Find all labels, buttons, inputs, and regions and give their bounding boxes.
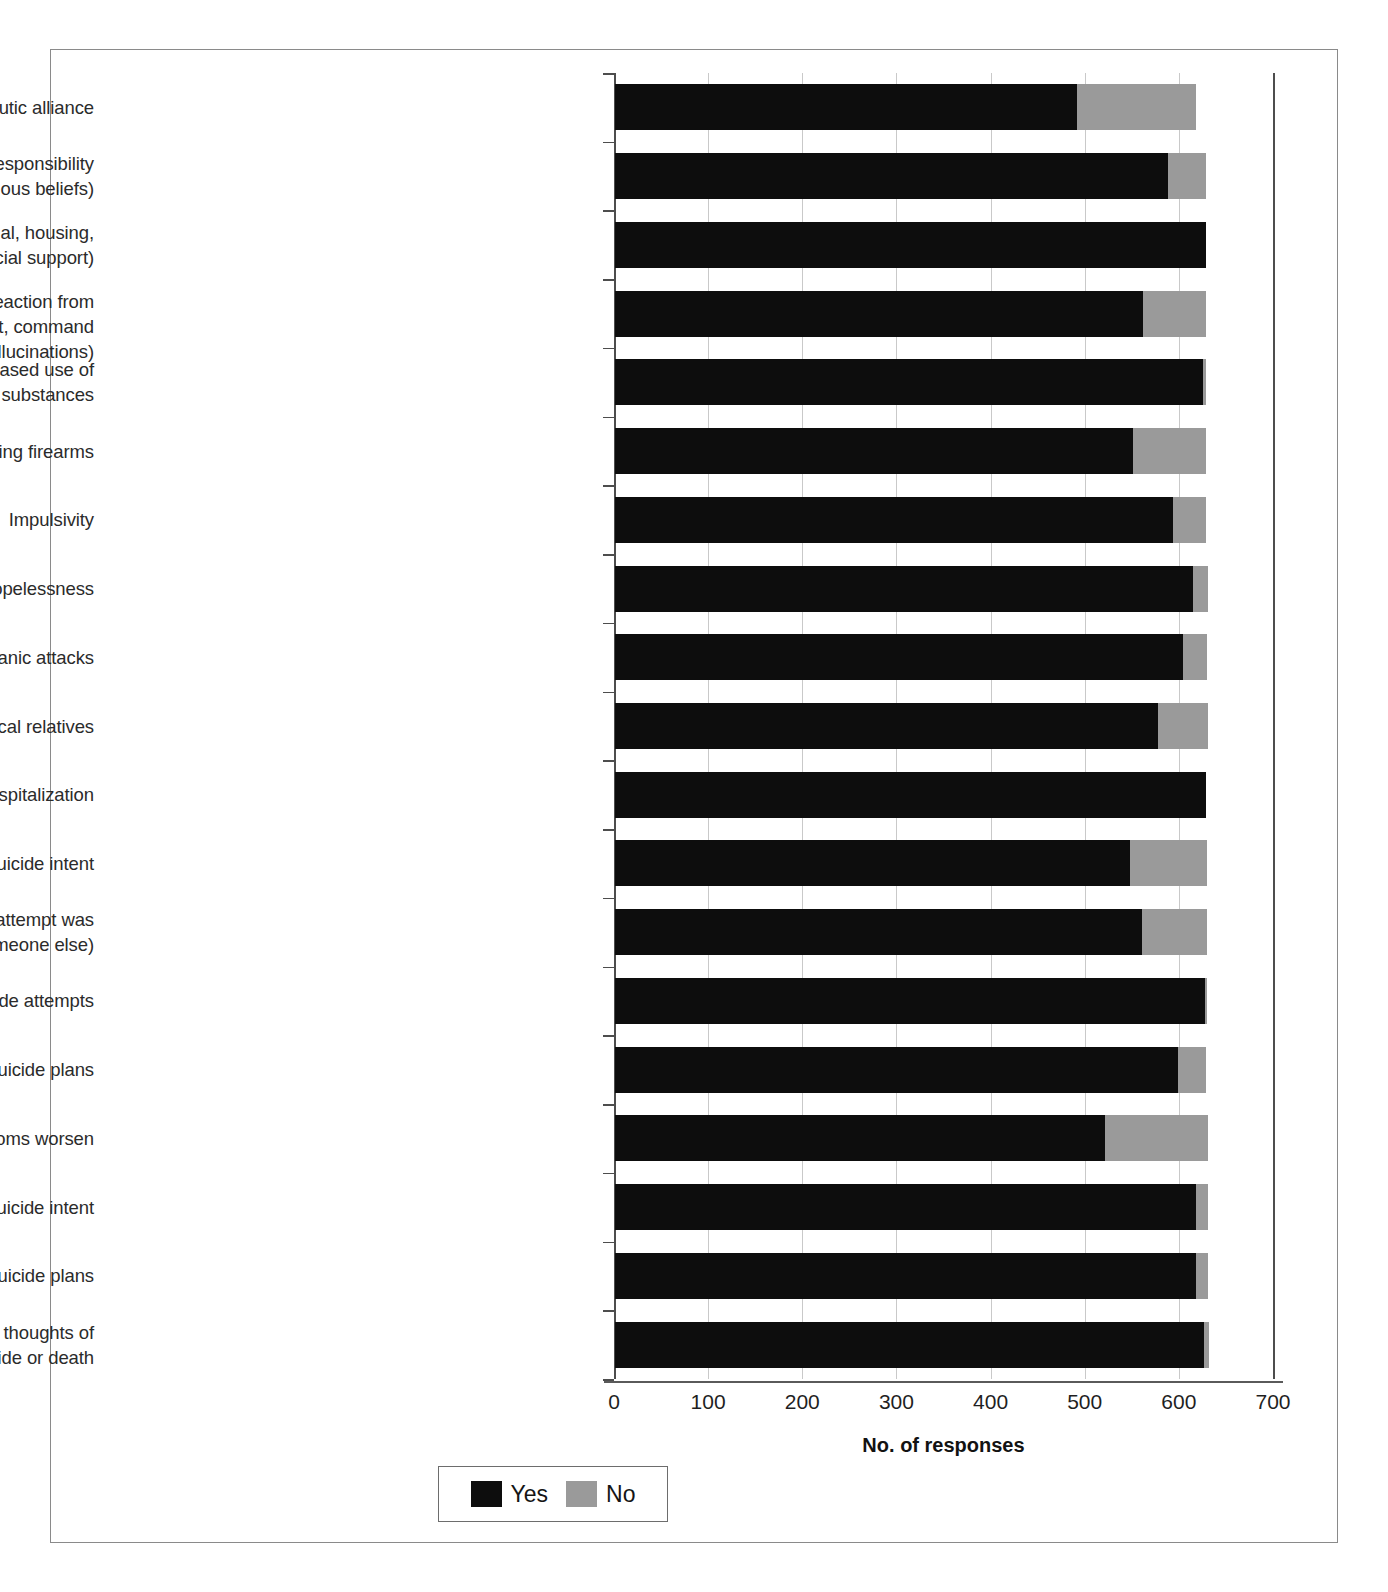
bar-segment-no [1203, 359, 1206, 405]
bar-segment-yes [615, 153, 1168, 199]
y-axis-tick [603, 348, 614, 350]
category-label-line: Prior suicide attempts [0, 988, 94, 1013]
y-axis-tick [603, 1173, 614, 1175]
category-label: Quality and strength of the therapeutic … [0, 95, 94, 120]
gridline-700 [1273, 73, 1275, 1379]
category-label-line: others, revenge, shame, humiliation, del… [0, 314, 94, 364]
category-label-line: Prior aborted or interrupted suicide att… [0, 907, 94, 932]
x-tick-label-300: 300 [856, 1390, 936, 1414]
x-tick-label-600: 600 [1139, 1390, 1219, 1414]
category-label-line: alcohol or other substances [0, 382, 94, 407]
legend-swatch-yes [471, 1481, 502, 1507]
bar-row [615, 703, 1208, 749]
bar-segment-no [1142, 909, 1207, 955]
x-tick-label-200: 200 [762, 1390, 842, 1414]
category-label: Prior suicide attempts [0, 988, 94, 1013]
bar-segment-yes [615, 222, 1206, 268]
category-label-line: Prior suicidal ideas or suicide plans [0, 1057, 94, 1082]
y-axis-tick [603, 1035, 614, 1037]
x-axis-title: No. of responses [614, 1434, 1273, 1457]
x-tick-label-500: 500 [1045, 1390, 1125, 1414]
bar-segment-no [1173, 497, 1206, 543]
bar-segment-yes [615, 772, 1206, 818]
y-axis-tick [603, 623, 614, 625]
y-axis-tick [603, 279, 614, 281]
bar-segment-no [1143, 291, 1206, 337]
x-tick-label-0: 0 [574, 1390, 654, 1414]
category-label-line: Hopelessness [0, 576, 94, 601]
category-label-line: to children or others, religious beliefs… [0, 176, 94, 201]
category-label: Accessibility of suicide methods, includ… [0, 439, 94, 464]
bar-segment-yes [615, 1115, 1105, 1161]
y-axis-tick [603, 485, 614, 487]
bar-row [615, 84, 1196, 130]
bar-row [615, 909, 1207, 955]
y-axis-tick [603, 1310, 614, 1312]
y-axis-tick [603, 692, 614, 694]
bar-row [615, 428, 1206, 474]
bar-segment-yes [615, 291, 1143, 337]
bar-row [615, 222, 1206, 268]
legend-label-yes: Yes [511, 1481, 549, 1508]
y-axis-tick [603, 1242, 614, 1244]
category-label-line: Impulsivity [0, 507, 94, 532]
x-tick-label-400: 400 [951, 1390, 1031, 1414]
category-label-line: Presence or absence of psychosocial stre… [0, 220, 94, 245]
bar-segment-no [1204, 1322, 1209, 1368]
bar-row [615, 1322, 1209, 1368]
legend-item-no: No [566, 1481, 635, 1508]
bar-segment-no [1193, 566, 1208, 612]
bar-row [615, 1184, 1208, 1230]
bar-segment-yes [615, 1184, 1196, 1230]
bar-segment-no [1105, 1115, 1209, 1161]
legend-swatch-no [566, 1481, 597, 1507]
bar-segment-yes [615, 1322, 1204, 1368]
y-axis-tick [603, 1104, 614, 1106]
category-label: Current or recent dependence, abuse, or … [0, 357, 94, 407]
y-axis-tick [603, 829, 614, 831]
category-label-line: Intended course of action if current sym… [0, 1126, 94, 1151]
category-label: Prior intentional self-injury without su… [0, 851, 94, 876]
bar-row [615, 291, 1206, 337]
category-label-line: stopped by the individual or by someone … [0, 932, 94, 957]
bar-segment-no [1196, 1253, 1208, 1299]
bar-segment-no [1130, 840, 1207, 886]
bar-segment-yes [615, 497, 1173, 543]
category-label-line: Current suicide plans [0, 1263, 94, 1288]
y-axis-tick [603, 554, 614, 556]
bar-segment-no [1178, 1047, 1206, 1093]
bar-segment-no [1133, 428, 1206, 474]
bar-segment-yes [615, 359, 1203, 405]
category-label: Hopelessness [0, 576, 94, 601]
bar-segment-yes [615, 909, 1142, 955]
y-axis-tick [603, 967, 614, 969]
category-label: Presence of possible motivations for sui… [0, 289, 94, 364]
bar-row [615, 1253, 1208, 1299]
category-label: Current suicide intent [0, 1195, 94, 1220]
category-label: Prior aborted or interrupted suicide att… [0, 907, 94, 957]
bar-row [615, 1115, 1208, 1161]
category-label-line: legal or school/occupational problems; l… [0, 245, 94, 270]
bar-row [615, 840, 1207, 886]
bar-segment-yes [615, 428, 1133, 474]
category-label-line: Prior intentional self-injury without su… [0, 851, 94, 876]
bar-segment-yes [615, 1253, 1196, 1299]
bar-segment-yes [615, 566, 1193, 612]
bar-segment-yes [615, 840, 1130, 886]
y-axis-tick [603, 73, 614, 75]
category-label-line: Current suicidal ideas, including active… [0, 1320, 94, 1345]
category-label: Intended course of action if current sym… [0, 1126, 94, 1151]
bar-segment-no [1196, 1184, 1208, 1230]
category-label-line: Current or recent dependence, abuse, or … [0, 357, 94, 382]
category-label-line: Anxiety symptoms, including panic attack… [0, 645, 94, 670]
y-axis-tick [603, 210, 614, 212]
category-label-line: History of suicidal behaviors in biologi… [0, 714, 94, 739]
category-label-line: History of psychiatric hospitalization [0, 782, 94, 807]
x-tick-label-100: 100 [668, 1390, 748, 1414]
category-label: History of suicidal behaviors in biologi… [0, 714, 94, 739]
bar-chart: No. of responses Yes No 0100200300400500… [51, 50, 1339, 1544]
y-axis-tick [603, 760, 614, 762]
bar-segment-yes [615, 1047, 1178, 1093]
bar-row [615, 359, 1206, 405]
category-label: Anxiety symptoms, including panic attack… [0, 645, 94, 670]
